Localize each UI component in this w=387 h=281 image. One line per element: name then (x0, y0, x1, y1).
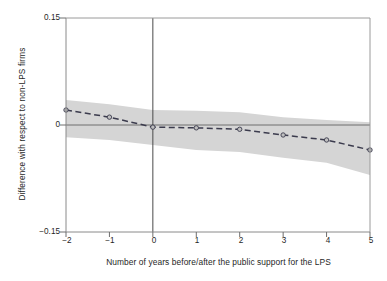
data-point-marker (238, 127, 242, 131)
confidence-band (66, 100, 370, 175)
reference-lines-group (66, 18, 370, 232)
data-point-marker (107, 115, 111, 119)
x-tick-marks (66, 232, 370, 237)
chart-figure: Difference with respect to non-LPS firms… (0, 0, 387, 281)
data-point-marker (324, 138, 328, 142)
confidence-band-group (66, 100, 370, 175)
plot-area (0, 0, 387, 281)
data-point-marker (281, 133, 285, 137)
data-point-marker (194, 126, 198, 130)
data-point-marker (151, 125, 155, 129)
